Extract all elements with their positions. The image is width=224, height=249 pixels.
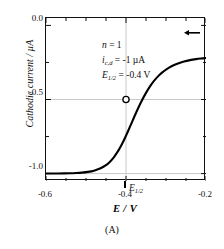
annotation-icd-value: = -1 µA: [112, 55, 145, 65]
ytick-label-2: -1.0: [7, 162, 43, 171]
limiting-current-arrow: [184, 30, 200, 36]
plot-area: n = 1 ic,d = -1 µA E1/2 = -0.4 V: [45, 17, 205, 180]
figure-polarographic-wave: 0.0 -0.5 -1.0 -0.6 -0.4 -0.2 Cathodic cu…: [0, 0, 224, 249]
half-wave-point-marker: [123, 96, 129, 102]
half-wave-subscript: 1/2: [135, 187, 143, 194]
x-axis-title: E / V: [45, 203, 205, 214]
half-wave-axis-tick: [124, 181, 126, 188]
figure-caption: (A): [0, 224, 224, 235]
half-wave-axis-label: E1/2: [129, 183, 143, 193]
annotation-icd-subscript: c,d: [105, 59, 113, 66]
annotation-block: n = 1 ic,d = -1 µA E1/2 = -0.4 V: [102, 40, 150, 85]
annotation-ehalf-value: = -0.4 V: [116, 70, 150, 80]
annotation-ehalf-symbol: E: [102, 70, 108, 80]
annotation-icd: ic,d = -1 µA: [102, 55, 150, 65]
annotation-n: n = 1: [102, 40, 150, 50]
annotation-n-value: = 1: [107, 40, 122, 50]
annotation-ehalf-subscript: 1/2: [108, 74, 116, 81]
annotation-ehalf: E1/2 = -0.4 V: [102, 70, 150, 80]
y-axis-title: Cathodic current / µA: [24, 9, 35, 159]
xtick-label-0: -0.6: [25, 190, 65, 199]
xtick-label-2: -0.2: [185, 190, 224, 199]
half-wave-symbol: E: [129, 183, 135, 193]
